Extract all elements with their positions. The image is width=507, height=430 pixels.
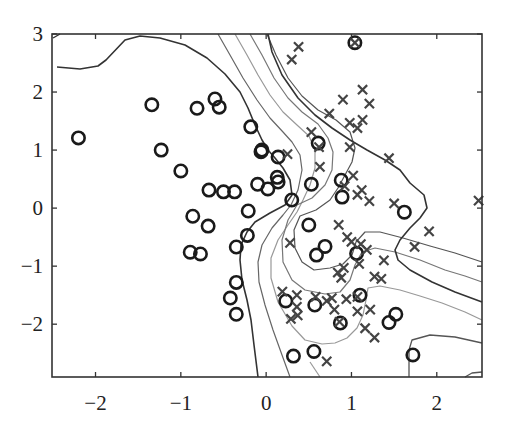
- x-tick-label: 1: [346, 391, 357, 415]
- contour-inner-4: [267, 34, 482, 270]
- circle-marker: [230, 276, 242, 288]
- cross-marker: [350, 38, 359, 47]
- cross-marker: [353, 123, 362, 132]
- cross-marker: [349, 171, 358, 180]
- cross-marker: [292, 291, 301, 300]
- cross-marker: [358, 85, 367, 94]
- circle-marker: [146, 99, 158, 111]
- cross-marker: [370, 333, 379, 342]
- circle-marker: [308, 345, 320, 357]
- circle-marker: [303, 219, 315, 231]
- cross-marker: [366, 305, 375, 314]
- cross-marker: [307, 127, 316, 136]
- cross-marker: [330, 305, 339, 314]
- cross-marker: [287, 55, 296, 64]
- cross-marker: [379, 256, 388, 265]
- circle-marker: [202, 220, 214, 232]
- circle-marker: [310, 249, 322, 261]
- y-tick-label: −1: [21, 254, 43, 278]
- y-tick-label: 3: [33, 22, 44, 46]
- cross-marker: [365, 197, 374, 206]
- x-tick-label: −2: [84, 391, 106, 415]
- circle-marker: [383, 316, 395, 328]
- x-tick-label: −1: [170, 391, 192, 415]
- scatter-plot: −2−1012 −2−10123: [0, 0, 507, 430]
- y-tick-label: 2: [33, 80, 44, 104]
- circle-marker: [336, 191, 348, 203]
- y-tick-label: 0: [33, 196, 44, 220]
- cross-marker: [345, 143, 354, 152]
- circle-marker: [398, 206, 410, 218]
- cross-marker: [347, 237, 356, 246]
- y-tick-label: −2: [21, 312, 43, 336]
- cross-marker: [410, 242, 419, 251]
- circle-marker: [242, 205, 254, 217]
- circle-marker: [203, 184, 215, 196]
- cross-marker: [294, 42, 303, 51]
- y-tick-label: 1: [33, 138, 44, 162]
- circle-marker: [224, 292, 236, 304]
- decision-contours: [53, 34, 482, 377]
- cross-marker: [322, 357, 331, 366]
- cross-marker: [338, 95, 347, 104]
- cross-marker: [390, 199, 399, 208]
- x-axis-ticks: −2−1012: [84, 34, 442, 415]
- y-axis-ticks: −2−10123: [21, 22, 482, 336]
- x-tick-label: 0: [261, 391, 272, 415]
- cross-marker: [335, 317, 344, 326]
- circle-marker: [262, 183, 274, 195]
- contour-outer-left: [57, 36, 292, 377]
- circle-marker: [390, 308, 402, 320]
- contour-lower-right-2: [310, 362, 320, 377]
- circle-marker: [187, 210, 199, 222]
- x-tick-label: 2: [432, 391, 443, 415]
- cross-marker: [358, 115, 367, 124]
- circle-marker: [175, 165, 187, 177]
- axes: −2−1012 −2−10123: [21, 22, 482, 415]
- data-markers: [72, 37, 483, 366]
- circle-marker: [287, 350, 299, 362]
- cross-marker: [353, 190, 362, 199]
- circle-marker: [191, 102, 203, 114]
- cross-marker: [365, 99, 374, 108]
- cross-marker: [334, 220, 343, 229]
- cross-marker: [361, 324, 370, 333]
- cross-marker: [425, 227, 434, 236]
- circle-marker: [230, 308, 242, 320]
- cross-marker: [342, 295, 351, 304]
- cross-marker: [285, 238, 294, 247]
- contour-outer-right: [268, 34, 482, 302]
- circle-marker: [72, 132, 84, 144]
- plot-frame: [52, 34, 482, 377]
- cross-marker: [345, 118, 354, 127]
- cross-marker: [353, 307, 362, 316]
- cross-marker: [292, 302, 301, 311]
- circle-marker: [155, 144, 167, 156]
- cross-marker: [384, 154, 393, 163]
- cross-marker: [315, 162, 324, 171]
